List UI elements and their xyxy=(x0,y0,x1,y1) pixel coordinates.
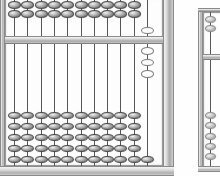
abacus-bead[interactable] xyxy=(88,123,101,131)
abacus-bead[interactable] xyxy=(35,112,48,120)
abacus-bead[interactable] xyxy=(35,134,48,142)
abacus-bead[interactable] xyxy=(128,123,141,131)
abacus-bead[interactable] xyxy=(8,1,21,9)
abacus-bead[interactable] xyxy=(75,134,88,142)
abacus-bead[interactable] xyxy=(21,10,34,18)
abacus-bead[interactable] xyxy=(75,145,88,153)
abacus-bead[interactable] xyxy=(128,134,141,142)
abacus-rod[interactable] xyxy=(94,0,95,166)
abacus-bead[interactable] xyxy=(101,156,114,164)
abacus-bead[interactable] xyxy=(35,145,48,153)
abacus-bead[interactable] xyxy=(88,1,101,9)
frame-rail-right xyxy=(163,0,174,176)
abacus-bead[interactable] xyxy=(88,145,101,153)
abacus-bead[interactable] xyxy=(48,10,61,18)
abacus-bead[interactable] xyxy=(101,145,114,153)
abacus-bead[interactable] xyxy=(8,134,21,142)
abacus-bead[interactable] xyxy=(48,156,61,164)
abacus-reckoning-beam xyxy=(203,54,220,60)
abacus-bead[interactable] xyxy=(205,143,216,150)
abacus-bead[interactable] xyxy=(35,123,48,131)
abacus-bead[interactable] xyxy=(141,156,154,164)
abacus-rod[interactable] xyxy=(27,0,28,166)
abacus-reckoning-beam xyxy=(5,36,163,44)
frame-rail-left xyxy=(0,0,5,176)
abacus-bead[interactable] xyxy=(205,133,216,140)
abacus-bead[interactable] xyxy=(88,134,101,142)
abacus-bead[interactable] xyxy=(141,59,154,67)
abacus-bead[interactable] xyxy=(128,145,141,153)
abacus-bead[interactable] xyxy=(61,156,74,164)
scene-canvas xyxy=(0,0,220,176)
abacus-bead[interactable] xyxy=(75,10,88,18)
abacus-bead[interactable] xyxy=(205,25,216,32)
abacus-rod[interactable] xyxy=(67,0,68,166)
abacus-bead[interactable] xyxy=(114,1,127,9)
abacus-bead[interactable] xyxy=(128,156,141,164)
abacus-rod[interactable] xyxy=(147,0,148,166)
abacus-bead[interactable] xyxy=(114,10,127,18)
abacus-bead[interactable] xyxy=(128,1,141,9)
abacus-bead[interactable] xyxy=(35,156,48,164)
abacus-bead[interactable] xyxy=(75,112,88,120)
abacus-bead[interactable] xyxy=(205,16,216,23)
frame-rail-left xyxy=(198,8,203,172)
abacus-rod[interactable] xyxy=(14,0,15,166)
abacus-rod[interactable] xyxy=(120,0,121,166)
abacus-bead[interactable] xyxy=(88,10,101,18)
abacus-bead[interactable] xyxy=(141,70,154,78)
abacus-bead[interactable] xyxy=(35,1,48,9)
abacus-bead[interactable] xyxy=(21,156,34,164)
abacus-bead[interactable] xyxy=(75,1,88,9)
abacus-bead[interactable] xyxy=(8,10,21,18)
abacus-bead[interactable] xyxy=(75,156,88,164)
abacus-bead[interactable] xyxy=(88,156,101,164)
abacus-bead[interactable] xyxy=(128,10,141,18)
abacus-rod[interactable] xyxy=(54,0,55,166)
abacus-bead[interactable] xyxy=(205,153,216,160)
abacus-bead[interactable] xyxy=(8,156,21,164)
abacus-rod[interactable] xyxy=(41,0,42,166)
abacus-bead[interactable] xyxy=(141,47,154,55)
abacus-bead[interactable] xyxy=(35,10,48,18)
abacus-primary[interactable] xyxy=(0,0,174,176)
abacus-bead[interactable] xyxy=(48,134,61,142)
abacus-bead[interactable] xyxy=(8,145,21,153)
frame-rail-bottom xyxy=(0,166,174,176)
abacus-bead[interactable] xyxy=(48,1,61,9)
abacus-bead[interactable] xyxy=(101,1,114,9)
abacus-bead[interactable] xyxy=(101,10,114,18)
abacus-bead[interactable] xyxy=(61,10,74,18)
abacus-secondary[interactable] xyxy=(198,8,220,172)
frame-rail-bottom xyxy=(198,166,220,172)
frame-rail-top xyxy=(198,8,220,12)
abacus-bead[interactable] xyxy=(48,145,61,153)
abacus-rod[interactable] xyxy=(134,0,135,166)
abacus-rod[interactable] xyxy=(81,0,82,166)
abacus-bead[interactable] xyxy=(61,1,74,9)
abacus-inner-panel xyxy=(5,0,163,166)
abacus-bead[interactable] xyxy=(75,123,88,131)
abacus-bead[interactable] xyxy=(21,1,34,9)
abacus-bead[interactable] xyxy=(141,27,154,35)
abacus-rod[interactable] xyxy=(107,0,108,166)
